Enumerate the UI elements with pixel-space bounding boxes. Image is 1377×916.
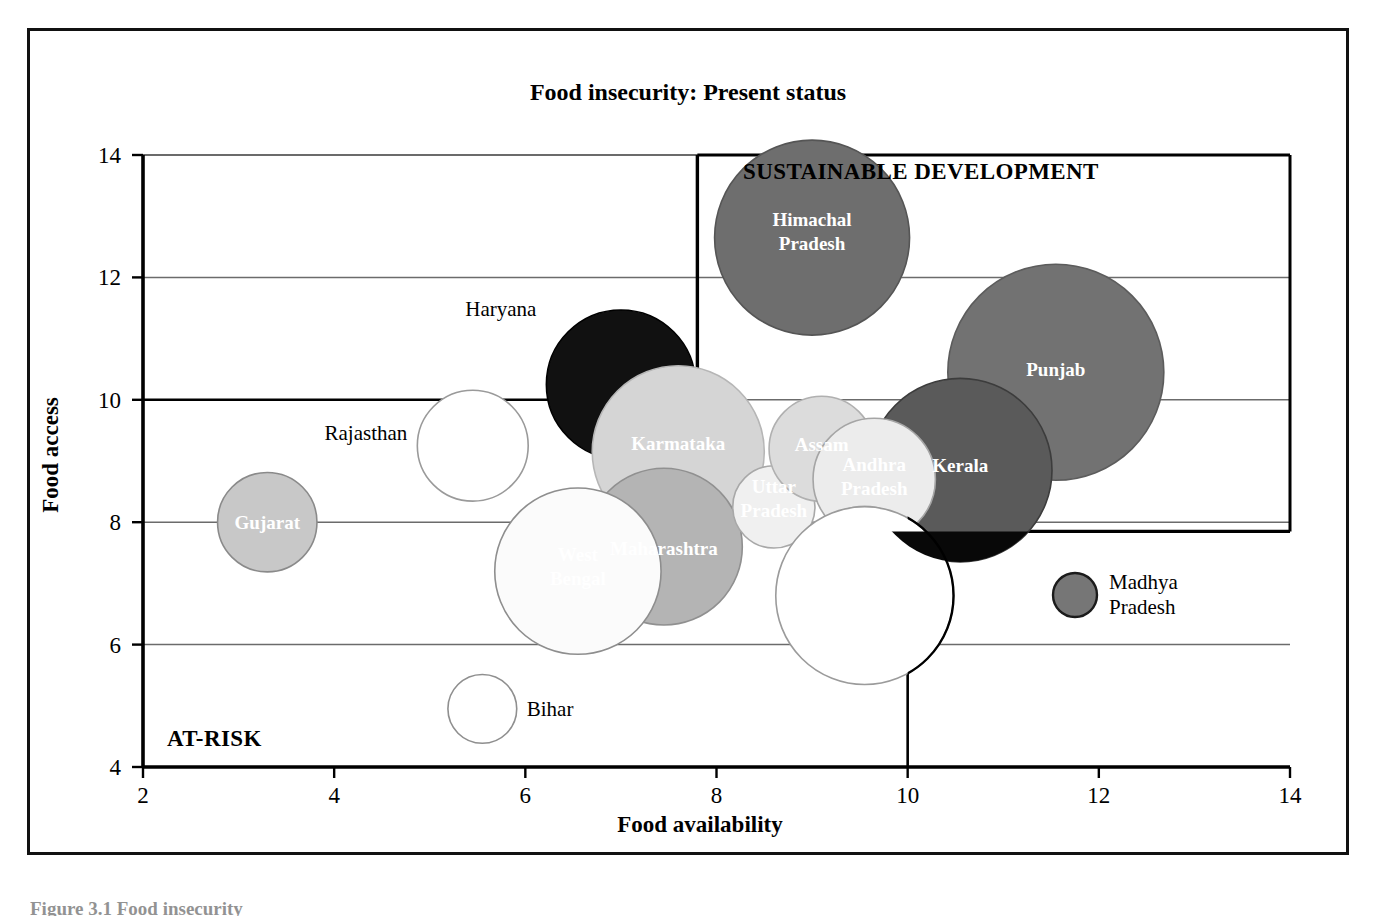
bubble-label-line: Pradesh: [741, 500, 808, 521]
bubble-label-line: West: [558, 544, 599, 565]
bubble-label-line: Assam: [795, 434, 849, 455]
x-tick-label-4: 4: [328, 783, 340, 808]
bubble-label-line: Punjab: [1026, 359, 1085, 380]
bubble-label-gujarat: Gujarat: [235, 512, 301, 533]
y-axis-title: Food access: [38, 397, 63, 513]
x-tick-label-6: 6: [520, 783, 532, 808]
legend-label-madhya-pradesh: MadhyaPradesh: [1109, 570, 1178, 619]
y-tick-label-14: 14: [98, 143, 122, 168]
legend-marker-madhya-pradesh: [1053, 573, 1097, 617]
annotation-sustainable-development: SUSTAINABLE DEVELOPMENT: [743, 159, 1099, 184]
bubble-label-line: Himachal: [772, 209, 851, 230]
bubble-label-line: Uttar: [752, 476, 797, 497]
y-tick-label-12: 12: [98, 265, 121, 290]
annotation-at-risk: AT-RISK: [167, 726, 262, 751]
legend-label-line: Madhya: [1109, 570, 1178, 594]
bubble-label-punjab: Punjab: [1026, 359, 1085, 380]
bubble-bihar: [448, 674, 517, 743]
bubble-label-line: Orissa: [838, 554, 891, 575]
bubble-label-line: Karmataka: [631, 433, 725, 454]
x-tick-label-2: 2: [137, 783, 149, 808]
bubble-label-line: Maharashtra: [610, 538, 718, 559]
y-tick-label-4: 4: [110, 755, 122, 780]
bubble-label-rajasthan: Rajasthan: [325, 421, 408, 445]
y-tick-label-10: 10: [98, 388, 121, 413]
y-tick-label-8: 8: [110, 510, 122, 535]
food-insecurity-bubble-chart: HimachalPradeshPunjabHaryanaRajasthanKar…: [0, 0, 1377, 916]
figure-root: HimachalPradeshPunjabHaryanaRajasthanKar…: [0, 0, 1377, 916]
bubble-label-karmataka: Karmataka: [631, 433, 725, 454]
bubble-label-maharashtra: Maharashtra: [610, 538, 718, 559]
bubble-label-line: Nadu: [842, 615, 887, 636]
bubble-rajasthan: [417, 390, 528, 501]
bubble-label-assam: Assam: [795, 434, 849, 455]
bubble-label-line: Haryana: [465, 297, 537, 321]
bubble-label-line: Andhra: [843, 454, 907, 475]
bubble-label-line: Kerala: [932, 455, 988, 476]
bubble-label-line: Bengal: [550, 568, 606, 589]
x-axis-title: Food availability: [617, 812, 783, 837]
bubble-label-line: Pradesh: [779, 233, 846, 254]
chart-title: Food insecurity: Present status: [530, 79, 846, 105]
bubble-label-haryana: Haryana: [465, 297, 537, 321]
bubble-label-line: Pradesh: [841, 478, 908, 499]
x-tick-label-8: 8: [711, 783, 723, 808]
bubble-label-line: Bihar: [527, 697, 574, 721]
bubble-label-kerala: Kerala: [932, 455, 988, 476]
x-tick-label-14: 14: [1279, 783, 1303, 808]
x-tick-label-10: 10: [896, 783, 919, 808]
bubble-label-orissa: Orissa: [838, 554, 891, 575]
bubble-label-line: Gujarat: [235, 512, 301, 533]
x-tick-label-12: 12: [1087, 783, 1110, 808]
y-tick-label-6: 6: [110, 633, 122, 658]
legend-label-line: Pradesh: [1109, 595, 1176, 619]
bubble-label-line: Tamil: [841, 591, 888, 612]
figure-caption: Figure 3.1 Food insecurity: [30, 898, 1230, 916]
bubble-label-line: Rajasthan: [325, 421, 408, 445]
chart-legend: MadhyaPradesh: [1053, 570, 1178, 619]
bubble-label-bihar: Bihar: [527, 697, 574, 721]
